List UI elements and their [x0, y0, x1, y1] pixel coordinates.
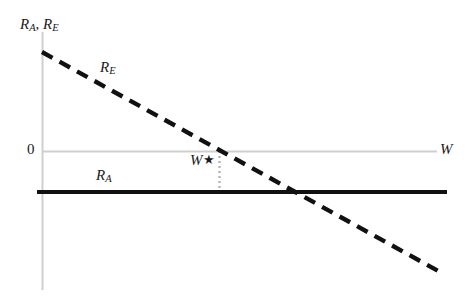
diagram-canvas: [0, 0, 474, 296]
origin-tick-label: 0: [27, 142, 35, 157]
y-axis-label: RA, RE: [20, 17, 59, 34]
w-star-label: W★: [190, 153, 215, 168]
curve-label-re: RE: [100, 60, 116, 77]
x-axis-label: W: [440, 142, 453, 157]
curve-re: [42, 52, 440, 272]
curve-label-ra: RA: [96, 168, 112, 185]
economics-diagram: RA, RE W 0 RE RA W★: [0, 0, 474, 296]
